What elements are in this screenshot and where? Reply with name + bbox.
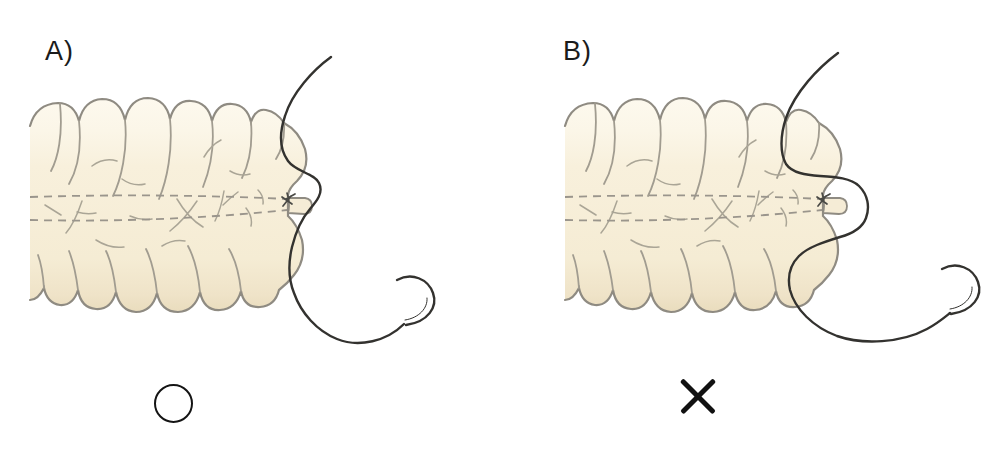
panel-a-illustration — [30, 57, 434, 343]
illustration-svg — [0, 0, 994, 450]
correct-circle-mark — [154, 384, 193, 423]
figure: A) B) — [0, 0, 994, 450]
panel-b-illustration — [565, 53, 979, 341]
panel-b-label: B) — [563, 38, 592, 65]
incorrect-cross-mark — [681, 379, 715, 413]
panel-a-label: A) — [45, 38, 74, 65]
